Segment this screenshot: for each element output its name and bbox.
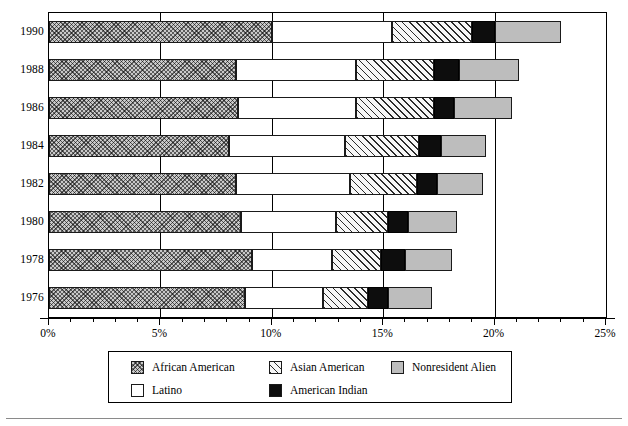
x-tick-minor-3 xyxy=(115,318,116,322)
bar-segment-nonresident-alien-1982 xyxy=(437,173,484,195)
bar-segment-latino-1978 xyxy=(252,249,332,271)
x-tick-major-25 xyxy=(605,318,606,325)
x-tick-label-10%: 10% xyxy=(260,327,281,340)
legend-label-nonresident-alien: Nonresident Alien xyxy=(412,361,496,374)
bar-segment-african-american-1984 xyxy=(49,135,229,157)
bar-segment-american-indian-1982 xyxy=(417,173,437,195)
bar-segment-american-indian-1988 xyxy=(434,59,459,81)
x-tick-major-0 xyxy=(48,318,49,325)
bar-segment-asian-american-1980 xyxy=(336,211,387,233)
y-axis-label-1982: 1982 xyxy=(0,177,44,189)
x-tick-major-10 xyxy=(271,318,272,325)
y-axis-label-1976: 1976 xyxy=(0,291,44,303)
bar-segment-asian-american-1986 xyxy=(356,97,434,119)
x-tick-minor-7 xyxy=(204,318,205,322)
legend-label-african-american: African American xyxy=(152,361,235,374)
bar-segment-latino-1988 xyxy=(236,59,356,81)
bar-segment-asian-american-1988 xyxy=(356,59,434,81)
legend-swatch-nonresident-alien-icon xyxy=(391,361,404,374)
x-tick-minor-18 xyxy=(449,318,450,322)
legend-label-latino: Latino xyxy=(152,384,182,397)
legend-swatch-asian-american-icon xyxy=(269,361,282,374)
bar-segment-latino-1986 xyxy=(238,97,356,119)
bar-segment-nonresident-alien-1986 xyxy=(454,97,512,119)
y-axis-label-1986: 1986 xyxy=(0,101,44,113)
legend-item-nonresident-alien[interactable]: Nonresident Alien xyxy=(391,356,496,378)
bar-segment-latino-1984 xyxy=(229,135,345,157)
x-tick-major-20 xyxy=(494,318,495,325)
bar-segment-asian-american-1984 xyxy=(345,135,419,157)
bar-row-1978 xyxy=(49,249,606,271)
footer-rule xyxy=(6,418,622,419)
legend-item-african-american[interactable]: African American xyxy=(131,356,235,378)
bar-segment-african-american-1988 xyxy=(49,59,236,81)
legend-swatch-american-indian-icon xyxy=(269,384,282,397)
x-tick-minor-23 xyxy=(560,318,561,322)
bar-segment-african-american-1990 xyxy=(49,21,272,43)
bar-segment-american-indian-1984 xyxy=(419,135,441,157)
plot-area xyxy=(48,12,607,318)
y-axis-label-1988: 1988 xyxy=(0,63,44,75)
x-tick-label-20%: 20% xyxy=(483,327,504,340)
legend-row-1: African American Asian American Nonresid… xyxy=(109,356,511,378)
bar-row-1986 xyxy=(49,97,606,119)
x-tick-minor-1 xyxy=(70,318,71,322)
legend-item-asian-american[interactable]: Asian American xyxy=(269,356,364,378)
bar-segment-african-american-1976 xyxy=(49,287,245,309)
x-tick-minor-22 xyxy=(538,318,539,322)
bar-row-1982 xyxy=(49,173,606,195)
x-tick-label-15%: 15% xyxy=(372,327,393,340)
x-tick-minor-2 xyxy=(93,318,94,322)
x-tick-major-15 xyxy=(382,318,383,325)
x-tick-minor-8 xyxy=(226,318,227,322)
bar-segment-african-american-1986 xyxy=(49,97,238,119)
bar-segment-american-indian-1986 xyxy=(434,97,454,119)
bar-segment-american-indian-1976 xyxy=(368,287,388,309)
x-tick-major-5 xyxy=(159,318,160,325)
x-tick-label-25%: 25% xyxy=(594,327,615,340)
bar-segment-nonresident-alien-1984 xyxy=(441,135,486,157)
x-tick-minor-21 xyxy=(516,318,517,322)
bar-segment-latino-1990 xyxy=(272,21,392,43)
x-axis-line xyxy=(40,318,615,319)
y-axis-label-1984: 1984 xyxy=(0,139,44,151)
bar-row-1984 xyxy=(49,135,606,157)
x-tick-label-0%: 0% xyxy=(40,327,55,340)
y-axis-category-labels: 19901988198619841982198019781976 xyxy=(0,12,44,318)
bar-segment-american-indian-1978 xyxy=(381,249,406,271)
bar-segment-nonresident-alien-1990 xyxy=(495,21,562,43)
bar-segment-african-american-1978 xyxy=(49,249,252,271)
legend-label-asian-american: Asian American xyxy=(290,361,364,374)
x-tick-minor-17 xyxy=(427,318,428,322)
bar-segment-asian-american-1978 xyxy=(332,249,381,271)
bar-row-1988 xyxy=(49,59,606,81)
legend-swatch-african-american-icon xyxy=(131,361,144,374)
x-tick-minor-11 xyxy=(293,318,294,322)
legend-row-2: Latino American Indian xyxy=(109,379,511,401)
legend-label-american-indian: American Indian xyxy=(290,384,368,397)
x-tick-minor-24 xyxy=(583,318,584,322)
legend-swatch-latino-icon xyxy=(131,384,144,397)
stacked-bar-chart: 19901988198619841982198019781976 0%5%10%… xyxy=(0,0,628,426)
x-tick-minor-13 xyxy=(338,318,339,322)
legend-item-american-indian[interactable]: American Indian xyxy=(269,379,368,401)
x-tick-minor-19 xyxy=(471,318,472,322)
x-tick-minor-16 xyxy=(404,318,405,322)
bar-row-1980 xyxy=(49,211,606,233)
x-tick-minor-14 xyxy=(360,318,361,322)
bar-segment-latino-1982 xyxy=(236,173,350,195)
bar-segment-nonresident-alien-1980 xyxy=(408,211,457,233)
x-tick-label-5%: 5% xyxy=(152,327,167,340)
bar-segment-african-american-1980 xyxy=(49,211,241,233)
bar-row-1976 xyxy=(49,287,606,309)
bar-segment-american-indian-1980 xyxy=(388,211,408,233)
x-tick-minor-9 xyxy=(249,318,250,322)
x-tick-minor-6 xyxy=(182,318,183,322)
y-axis-label-1990: 1990 xyxy=(0,25,44,37)
x-tick-minor-12 xyxy=(315,318,316,322)
bar-segment-american-indian-1990 xyxy=(472,21,494,43)
bar-segment-latino-1976 xyxy=(245,287,323,309)
legend-item-latino[interactable]: Latino xyxy=(131,379,182,401)
bar-segment-african-american-1982 xyxy=(49,173,236,195)
bar-segment-asian-american-1982 xyxy=(350,173,417,195)
